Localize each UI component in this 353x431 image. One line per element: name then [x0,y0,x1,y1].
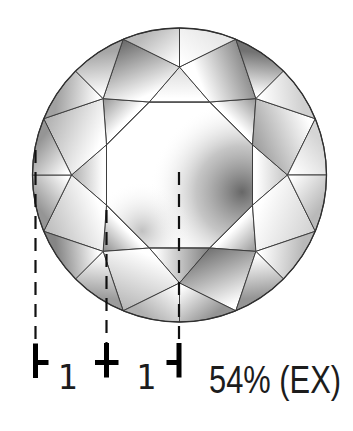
ratio-label-left: 1 [58,358,78,397]
left-end-tick-icon [33,344,48,379]
diamond-diagram-svg: 1 1 54% (EX) [0,0,353,431]
table-percentage-label: 54% (EX) [209,359,341,401]
ratio-label-right: 1 [136,358,156,397]
right-end-tick-icon [167,343,182,378]
ruler-ticks [33,343,181,378]
center-cross-tick-icon [95,343,119,378]
figure-canvas: 1 1 54% (EX) [0,0,353,431]
